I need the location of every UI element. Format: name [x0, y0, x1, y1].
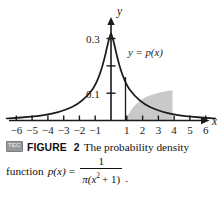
- svg-text:1: 1: [124, 124, 130, 136]
- caption-line-1: TEC FIGURE 2 The probability density: [6, 140, 220, 155]
- caption-text-line1: The probability density: [84, 140, 189, 155]
- svg-text:2: 2: [140, 124, 146, 136]
- caption-period: .: [125, 171, 128, 186]
- svg-text:3: 3: [156, 124, 162, 136]
- cauchy-density-chart: y x y = p(x) 0.3 0.1 −6 −5 −4 −3 −2 −1 1…: [0, 0, 223, 140]
- svg-text:−5: −5: [26, 124, 38, 136]
- figure-word: FIGURE: [27, 141, 67, 155]
- tec-badge-label: TEC: [8, 141, 21, 150]
- denominator-tail: + 1): [102, 173, 120, 185]
- fraction: 1 π(x2+ 1): [80, 156, 122, 185]
- svg-text:−1: −1: [89, 124, 101, 136]
- curve-label: y = p(x): [127, 46, 163, 59]
- svg-text:−2: −2: [74, 124, 86, 136]
- y-axis-arrow: [107, 17, 114, 25]
- y-axis-label: y: [116, 5, 123, 18]
- caption-function-word: function: [6, 164, 44, 179]
- figure-container: y x y = p(x) 0.3 0.1 −6 −5 −4 −3 −2 −1 1…: [0, 0, 223, 202]
- svg-text:5: 5: [187, 124, 193, 136]
- caption-line-2: function p(x) = 1 π(x2+ 1) .: [6, 157, 220, 186]
- denominator-pi-x: π(x: [82, 173, 96, 185]
- x-tick-labels: −6 −5 −4 −3 −2 −1 1 2 3 4 5 6: [10, 124, 209, 136]
- x-axis-label: x: [211, 115, 218, 127]
- shaded-area-region: [126, 90, 173, 120]
- svg-text:−4: −4: [42, 124, 54, 136]
- figure-caption: TEC FIGURE 2 The probability density fun…: [6, 140, 220, 186]
- y-tick-label-0-1: 0.1: [86, 88, 100, 100]
- svg-text:−6: −6: [10, 124, 22, 136]
- tec-badge-icon: TEC: [6, 141, 23, 152]
- chart-plot-area: y x y = p(x) 0.3 0.1 −6 −5 −4 −3 −2 −1 1…: [0, 0, 223, 140]
- fraction-bar: [80, 168, 122, 169]
- svg-text:4: 4: [171, 124, 177, 136]
- fraction-denominator: π(x2+ 1): [80, 170, 122, 185]
- equals-sign: =: [69, 164, 75, 179]
- svg-text:6: 6: [203, 124, 209, 136]
- denominator-exponent: 2: [96, 171, 100, 180]
- fraction-numerator: 1: [94, 156, 108, 167]
- function-name: p(x): [48, 164, 66, 179]
- y-tick-label-0-3: 0.3: [86, 33, 100, 45]
- svg-text:−3: −3: [58, 124, 70, 136]
- figure-number: 2: [74, 141, 80, 155]
